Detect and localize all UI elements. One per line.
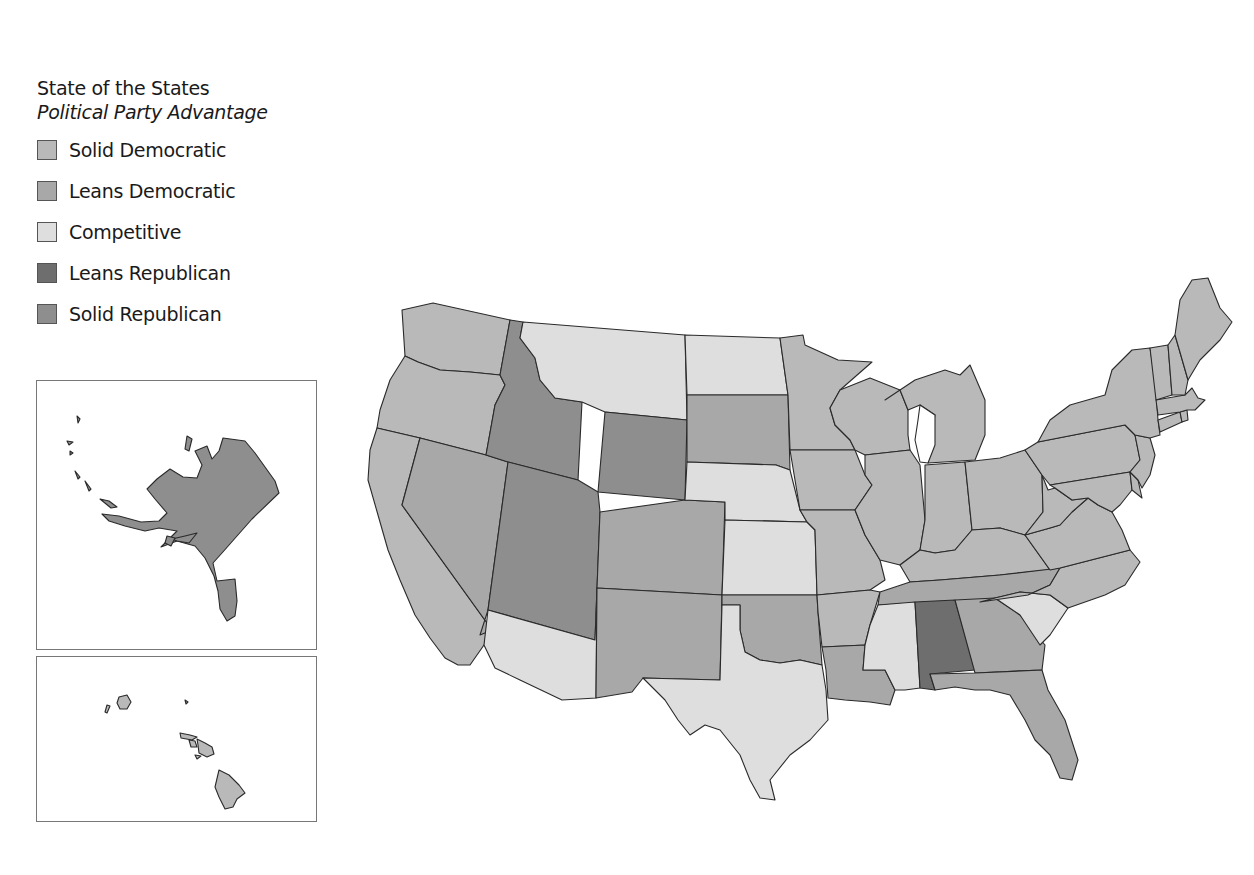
state-HI-island <box>105 705 110 713</box>
legend-item-leans-democratic: Leans Democratic <box>37 177 268 205</box>
legend: State of the States Political Party Adva… <box>37 76 268 328</box>
hawaii-map <box>37 657 315 820</box>
us-states-svg <box>360 250 1240 850</box>
legend-title: State of the States <box>37 76 268 100</box>
legend-list: Solid Democratic Leans Democratic Compet… <box>37 136 268 328</box>
legend-label: Leans Republican <box>69 262 231 284</box>
swatch-leans-democratic <box>37 181 57 201</box>
state-AK <box>102 438 279 621</box>
swatch-solid-democratic <box>37 140 57 160</box>
legend-item-solid-republican: Solid Republican <box>37 300 268 328</box>
top-cropped-text-remnant <box>0 0 1254 6</box>
legend-item-competitive: Competitive <box>37 218 268 246</box>
state-KS <box>722 520 817 595</box>
state-NY <box>1038 348 1160 442</box>
state-HI-island <box>197 739 214 757</box>
state-IA <box>790 450 872 510</box>
legend-subtitle: Political Party Advantage <box>37 100 268 124</box>
swatch-solid-republican <box>37 304 57 324</box>
state-AK-island <box>185 436 192 451</box>
state-HI-island <box>195 755 201 759</box>
legend-label: Solid Democratic <box>69 139 226 161</box>
legend-label: Competitive <box>69 221 181 243</box>
state-AK-island <box>100 499 117 508</box>
state-AK-island <box>77 416 80 423</box>
alaska-map <box>37 381 315 648</box>
state-AK-island <box>70 451 73 455</box>
legend-label: Leans Democratic <box>69 180 235 202</box>
legend-label: Solid Republican <box>69 303 221 325</box>
state-FL <box>930 670 1078 780</box>
state-OH <box>965 450 1043 535</box>
state-HI-island <box>117 695 131 709</box>
state-UT <box>488 462 600 640</box>
state-HI-island <box>215 770 245 809</box>
state-HI-island <box>185 700 188 704</box>
state-AK-island <box>85 481 91 491</box>
state-HI-island <box>189 740 197 747</box>
state-SD <box>687 395 790 470</box>
swatch-leans-republican <box>37 263 57 283</box>
state-ND <box>685 335 788 395</box>
contiguous-us-map <box>360 250 1240 850</box>
legend-item-solid-democratic: Solid Democratic <box>37 136 268 164</box>
state-ME <box>1175 278 1232 380</box>
swatch-competitive <box>37 222 57 242</box>
state-AK-island <box>67 441 73 445</box>
state-WY <box>598 412 687 500</box>
state-CO <box>597 500 725 595</box>
alaska-inset <box>36 380 317 650</box>
legend-item-leans-republican: Leans Republican <box>37 259 268 287</box>
hawaii-inset <box>36 656 317 822</box>
state-HI-island <box>180 733 197 740</box>
state-AK-island <box>75 471 80 479</box>
